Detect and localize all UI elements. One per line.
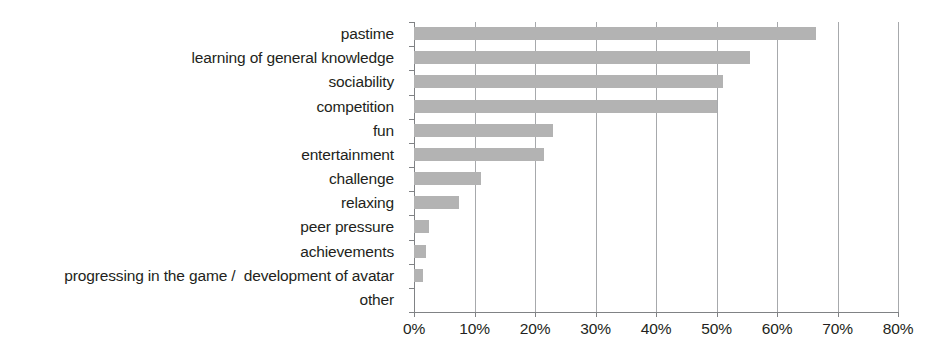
y-tick-mark [409, 312, 414, 313]
category-label: progressing in the game / development of… [64, 264, 394, 288]
horizontal-bar-chart: pastimelearning of general knowledgesoci… [0, 0, 927, 357]
bar [414, 75, 723, 88]
bar [414, 245, 426, 258]
bar-row [414, 288, 898, 312]
category-label: other [359, 288, 394, 312]
bar [414, 100, 717, 113]
category-label: fun [373, 119, 394, 143]
x-axis-tick-label: 40% [641, 320, 672, 338]
x-tick-mark [717, 312, 718, 317]
bar-row [414, 264, 898, 288]
bar-row [414, 46, 898, 70]
category-label: pastime [341, 22, 394, 46]
bar-row [414, 22, 898, 46]
plot-area [414, 22, 898, 312]
bar [414, 148, 544, 161]
x-axis-tick-label: 30% [580, 320, 611, 338]
x-tick-mark [414, 312, 415, 317]
category-label: learning of general knowledge [192, 46, 394, 70]
x-tick-mark [777, 312, 778, 317]
x-axis-tick-label: 70% [822, 320, 853, 338]
x-tick-mark [535, 312, 536, 317]
bar-row [414, 143, 898, 167]
x-tick-mark [475, 312, 476, 317]
bar [414, 172, 481, 185]
bar [414, 269, 423, 282]
x-tick-mark [596, 312, 597, 317]
bar-row [414, 167, 898, 191]
category-label: sociability [328, 70, 394, 94]
x-axis-tick-label: 60% [762, 320, 793, 338]
bar-row [414, 95, 898, 119]
bar [414, 196, 459, 209]
category-label: challenge [329, 167, 394, 191]
category-label: relaxing [341, 191, 394, 215]
category-label: achievements [300, 240, 394, 264]
bar-row [414, 191, 898, 215]
category-axis: pastimelearning of general knowledgesoci… [0, 22, 404, 312]
category-label: entertainment [301, 143, 394, 167]
x-axis-tick-label: 0% [403, 320, 425, 338]
bar [414, 51, 750, 64]
gridline-80% [898, 22, 899, 312]
bar [414, 124, 553, 137]
x-axis-tick-label: 20% [520, 320, 551, 338]
bar [414, 27, 816, 40]
x-axis-tick-label: 50% [701, 320, 732, 338]
bar [414, 220, 429, 233]
x-tick-mark [898, 312, 899, 317]
category-label: peer pressure [300, 215, 394, 239]
bar-row [414, 119, 898, 143]
bar-row [414, 70, 898, 94]
bar-row [414, 240, 898, 264]
x-tick-mark [838, 312, 839, 317]
x-axis-tick-label: 10% [459, 320, 490, 338]
x-tick-mark [656, 312, 657, 317]
bar-row [414, 215, 898, 239]
x-axis-tick-label: 80% [883, 320, 914, 338]
category-label: competition [316, 95, 394, 119]
value-axis: 0%10%20%30%40%50%60%70%80% [414, 320, 904, 350]
